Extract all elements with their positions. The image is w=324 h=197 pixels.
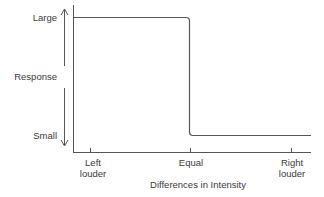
response-step-line — [74, 18, 312, 136]
y-label-small: Small — [33, 130, 57, 141]
x-label-right-line2: louder — [279, 168, 305, 179]
arrow-down-icon — [61, 88, 68, 146]
chart-canvas — [0, 0, 324, 197]
x-axis-title: Differences in Intensity — [150, 179, 246, 190]
y-axis-title: Response — [14, 71, 57, 82]
x-label-right-line1: Right — [281, 157, 303, 168]
x-label-left-line1: Left — [85, 157, 101, 168]
arrow-up-icon — [61, 9, 68, 66]
x-label-left-line2: louder — [80, 168, 106, 179]
x-label-equal: Equal — [179, 157, 203, 168]
y-label-large: Large — [33, 12, 57, 23]
